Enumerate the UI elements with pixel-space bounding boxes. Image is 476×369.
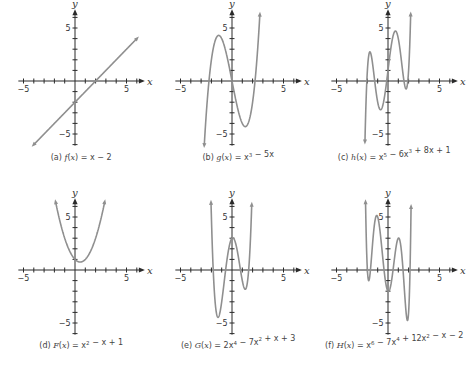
curve-arrow-icon <box>364 199 368 204</box>
x-tick-label: −5 <box>175 85 187 94</box>
y-tick-label: −5 <box>59 319 71 328</box>
graph-caption: (e) G(x) = 2x4 − 7x2 + x + 3 <box>181 334 296 350</box>
graph-caption: (f) H(x) = x6 − 7x4 + 12x2 − x − 2 <box>325 331 463 351</box>
y-tick-label: 5 <box>378 24 383 33</box>
x-tick-label: 5 <box>124 274 129 283</box>
x-tick-label: 5 <box>281 274 286 283</box>
x-axis-label: x <box>460 265 466 276</box>
y-tick-label: −5 <box>59 130 71 139</box>
x-tick-label: 5 <box>437 274 442 283</box>
graph-panel-f: −555−5xy(f) H(x) = x6 − 7x4 + 12x2 − x −… <box>325 187 466 350</box>
x-tick-label: 5 <box>124 85 129 94</box>
y-axis-label: y <box>228 187 235 198</box>
function-curve <box>56 202 105 262</box>
curve-arrow-icon <box>409 12 413 17</box>
curve-arrow-icon <box>409 204 413 209</box>
curve-arrow-icon <box>209 200 213 205</box>
y-axis-arrow-icon <box>385 198 390 204</box>
graph-caption: (b) g(x) = x3 − 5x <box>202 150 274 163</box>
x-axis-label: x <box>460 76 466 87</box>
graph-panel-c: −555−5xy(c) h(x) = x5 − 6x3 + 8x + 1 <box>331 0 466 162</box>
x-tick-label: −5 <box>18 85 30 94</box>
graph-panel-d: −555−5xy(d) F(x) = x2 − x + 1 <box>18 187 153 350</box>
curve-arrow-icon <box>54 199 58 204</box>
curve-arrow-icon <box>363 139 367 144</box>
y-tick-label: −5 <box>372 130 384 139</box>
x-axis-arrow-icon <box>296 78 302 83</box>
curve-arrow-icon <box>202 143 206 148</box>
x-axis-label: x <box>304 265 310 276</box>
y-tick-label: −5 <box>216 319 228 328</box>
x-tick-label: −5 <box>331 274 343 283</box>
y-axis-label: y <box>384 187 391 198</box>
y-axis-arrow-icon <box>72 198 77 204</box>
y-axis-arrow-icon <box>72 9 77 15</box>
curve-arrow-icon <box>258 12 262 17</box>
function-graphs-figure: −555−5xy(a) f(x) = x − 2−555−5xy(b) g(x)… <box>0 0 476 369</box>
y-axis-arrow-icon <box>385 9 390 15</box>
function-curve <box>211 203 252 317</box>
y-tick-label: −5 <box>216 130 228 139</box>
x-tick-label: 5 <box>437 85 442 94</box>
graph-panel-a: −555−5xy(a) f(x) = x − 2 <box>18 0 153 162</box>
y-axis-label: y <box>228 0 235 9</box>
x-axis-arrow-icon <box>139 78 145 83</box>
curve-arrow-icon <box>250 202 254 207</box>
y-axis-arrow-icon <box>229 9 234 15</box>
x-axis-arrow-icon <box>139 267 145 272</box>
x-axis-arrow-icon <box>452 78 458 83</box>
y-tick-label: 5 <box>65 213 70 222</box>
x-tick-label: −5 <box>331 85 343 94</box>
y-axis-label: y <box>71 0 78 9</box>
x-axis-label: x <box>304 76 310 87</box>
x-tick-label: −5 <box>175 274 187 283</box>
graph-panel-e: −555−5xy(e) G(x) = 2x4 − 7x2 + x + 3 <box>175 187 310 350</box>
x-tick-label: 5 <box>281 85 286 94</box>
x-axis-arrow-icon <box>296 267 302 272</box>
y-tick-label: 5 <box>222 213 227 222</box>
y-axis-label: y <box>71 187 78 198</box>
x-tick-label: −5 <box>18 274 30 283</box>
graph-caption: (a) f(x) = x − 2 <box>51 153 112 162</box>
x-axis-label: x <box>147 76 153 87</box>
y-axis-label: y <box>384 0 391 9</box>
graph-caption: (c) h(x) = x5 − 6x3 + 8x + 1 <box>338 146 451 162</box>
function-curve <box>34 39 137 145</box>
x-axis-label: x <box>147 265 153 276</box>
y-axis-arrow-icon <box>229 198 234 204</box>
y-tick-label: 5 <box>222 24 227 33</box>
y-tick-label: 5 <box>65 24 70 33</box>
curve-arrow-icon <box>102 199 106 204</box>
graph-panel-b: −555−5xy(b) g(x) = x3 − 5x <box>175 0 310 162</box>
graph-caption: (d) F(x) = x2 − x + 1 <box>39 338 123 351</box>
y-tick-label: −5 <box>372 319 384 328</box>
x-axis-arrow-icon <box>452 267 458 272</box>
